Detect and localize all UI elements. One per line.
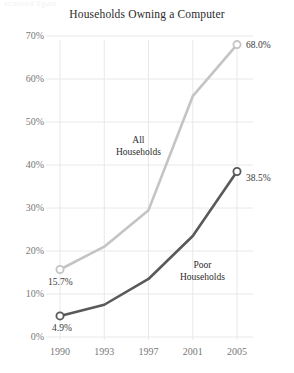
x-axis-tick-label: 1990: [37, 346, 83, 357]
annotation-line: Households: [116, 146, 161, 158]
y-axis-tick-label: 60%: [2, 73, 44, 84]
y-axis-tick-label: 70%: [2, 30, 44, 41]
x-axis-tick-label: 1993: [81, 346, 127, 357]
plot-area: [0, 0, 294, 373]
data-point-value-label: 68.0%: [246, 40, 271, 50]
series-annotation-poor-households: PoorHouseholds: [180, 259, 225, 283]
data-point-value-label: 4.9%: [52, 323, 72, 333]
x-axis-tick-label: 2001: [170, 346, 216, 357]
y-axis-tick-label: 50%: [2, 116, 44, 127]
x-axis-tick-label: 1997: [126, 346, 172, 357]
annotation-line: Poor: [180, 259, 225, 271]
gridlines: [46, 36, 253, 337]
data-point-value-label: 15.7%: [48, 277, 73, 287]
y-axis-tick-label: 20%: [2, 245, 44, 256]
data-point-marker: [233, 168, 240, 175]
chart-figure: scanned figure Households Owning a Compu…: [0, 0, 294, 373]
y-axis-tick-label: 40%: [2, 159, 44, 170]
vertical-gridlines: [60, 40, 237, 340]
annotation-line: Households: [180, 271, 225, 283]
series-annotation-all-households: AllHouseholds: [116, 134, 161, 158]
y-axis-tick-label: 10%: [2, 288, 44, 299]
data-point-value-label: 38.5%: [246, 173, 271, 183]
x-axis-tick-label: 2005: [214, 346, 260, 357]
data-point-marker: [56, 266, 63, 273]
annotation-line: All: [116, 134, 161, 146]
y-axis-tick-label: 30%: [2, 202, 44, 213]
data-point-marker: [56, 312, 63, 319]
y-axis-tick-label: 0%: [2, 331, 44, 342]
data-point-marker: [233, 41, 240, 48]
